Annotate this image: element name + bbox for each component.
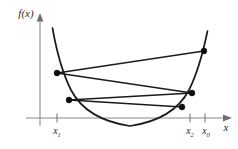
tick-label-x1: x1 bbox=[52, 125, 61, 138]
tick-label-x2-sub: 2 bbox=[191, 131, 195, 138]
secant-line-1 bbox=[57, 51, 204, 73]
data-point-x0 bbox=[201, 48, 207, 54]
data-point-x4 bbox=[179, 104, 185, 110]
figure-container: f(x) x x1 x2 x0 bbox=[0, 0, 238, 149]
tick-label-x1-sub: 1 bbox=[58, 131, 61, 138]
data-point-x1 bbox=[54, 70, 60, 76]
secant-method-figure: f(x) x x1 x2 x0 bbox=[0, 0, 238, 149]
tick-label-x0-sub: 0 bbox=[207, 131, 211, 138]
secant-lines bbox=[57, 51, 204, 107]
data-point-x3 bbox=[66, 97, 72, 103]
y-axis-arrowhead bbox=[37, 13, 44, 22]
secant-line-4 bbox=[69, 100, 182, 107]
tick-label-x2: x2 bbox=[185, 125, 194, 138]
function-curve bbox=[53, 28, 208, 126]
y-axis-label: f(x) bbox=[18, 7, 34, 20]
x-axis-label: x bbox=[223, 121, 229, 133]
secant-line-3 bbox=[69, 93, 192, 100]
secant-line-2 bbox=[57, 73, 192, 93]
tick-label-x0: x0 bbox=[201, 125, 210, 138]
y-axis bbox=[37, 13, 44, 126]
data-point-x2 bbox=[189, 90, 195, 96]
